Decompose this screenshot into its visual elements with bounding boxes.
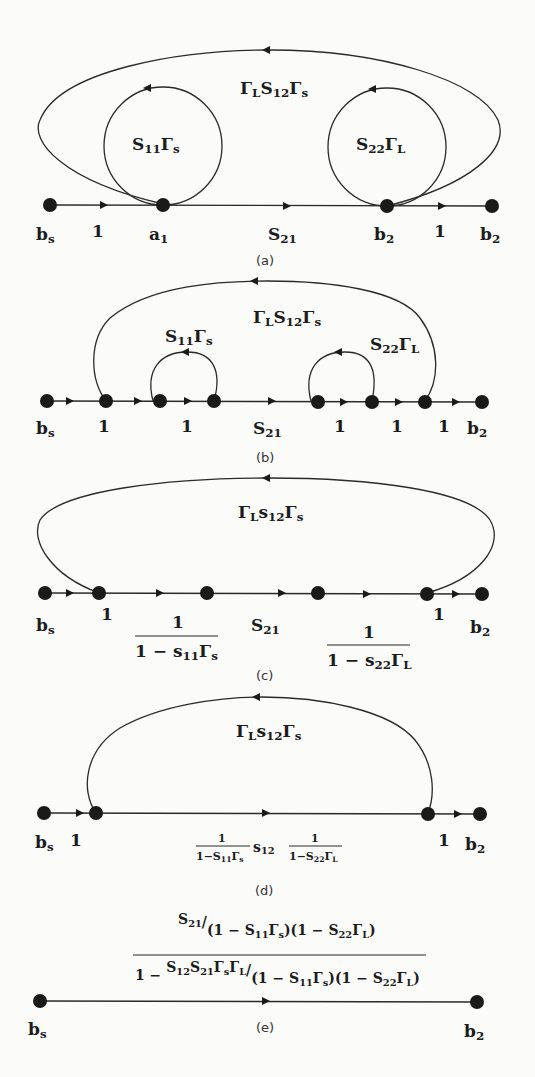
arrow-icon (262, 474, 270, 482)
node (153, 394, 167, 408)
node-b2 (380, 199, 394, 213)
node (420, 587, 434, 601)
panel-b: ΓLS12Γs S11Γs S22ΓL bs 1 1 S21 1 1 1 b2 … (36, 277, 489, 465)
signal-flow-graph-figure: ΓLS12Γs S11Γs S22ΓL bs 1 a1 S21 b2 1 b2 … (0, 0, 535, 1077)
arrow-icon (452, 398, 460, 406)
label-bs: bs (35, 832, 54, 854)
label-b2: b2 (470, 617, 490, 639)
node (311, 395, 325, 409)
label-s21: S21 (251, 615, 280, 637)
node (89, 806, 103, 820)
arrow-icon (340, 398, 348, 406)
label-gain-1: 1 (181, 416, 193, 436)
caption-a: (a) (256, 253, 274, 268)
node (311, 586, 325, 600)
node-bs (43, 198, 57, 212)
node (99, 394, 113, 408)
fraction-denominator: 1−S11Γs (196, 850, 244, 864)
label-gain-1: 1 (438, 416, 450, 436)
outer-feedback-loop (37, 478, 494, 593)
arrow-icon (66, 589, 74, 597)
label-b2: b2 (467, 418, 487, 440)
node (418, 395, 432, 409)
arrow-icon (278, 589, 286, 597)
outer-feedback-loop (94, 281, 436, 401)
arrow-icon (134, 397, 142, 405)
arrow-icon (143, 84, 151, 92)
fraction-numerator: 1 (172, 612, 184, 632)
label-b2-out: b2 (480, 224, 500, 246)
label-s21: S21 (268, 224, 297, 246)
label-gain-1: 1 (438, 830, 450, 850)
gain-numerator: S21/(1 − S11Γs)(1 − S22ΓL) (178, 911, 376, 940)
main-branch (45, 593, 482, 594)
node-bs (37, 806, 51, 820)
label-a1: a1 (149, 224, 168, 246)
label-s22-loop: S22ΓL (370, 334, 420, 356)
node (365, 395, 379, 409)
arrow-icon (452, 590, 460, 598)
panel-c: ΓLs12Γs bs 1 1 1 − s11Γs S21 1 1 − s22ΓL… (36, 474, 494, 683)
label-gain-1: 1 (433, 604, 445, 624)
fraction-denominator: 1 − s11Γs (135, 641, 218, 663)
arrow-icon (262, 46, 270, 54)
label-gain-1: 1 (434, 221, 446, 241)
caption-d: (d) (255, 883, 273, 898)
label-outer-loop: ΓLs12Γs (236, 721, 302, 743)
label-bs: bs (36, 615, 55, 637)
fraction-numerator: 1 (218, 832, 226, 845)
arrow-icon (395, 398, 403, 406)
label-outer-loop: ΓLS12Γs (240, 78, 308, 100)
panel-e: S21/(1 − S11Γs)(1 − S22ΓL) 1 − S12S21ΓsΓ… (28, 911, 484, 1043)
arrow-icon (368, 85, 376, 93)
label-gain-1: 1 (101, 604, 113, 624)
arrow-icon (250, 277, 258, 285)
arrow-icon (262, 809, 270, 817)
arrow-icon (76, 809, 84, 817)
s22-gammal-loop (309, 352, 374, 401)
arrow-icon (283, 202, 291, 210)
fraction-denominator: 1−S22ΓL (289, 850, 338, 864)
node (200, 586, 214, 600)
node-bs (38, 586, 52, 600)
arrow-icon (438, 202, 446, 210)
node-a1 (156, 198, 170, 212)
caption-b: (b) (256, 450, 274, 465)
label-s22-loop: S22ΓL (356, 134, 406, 156)
arrow-icon (262, 997, 270, 1005)
arrow-icon (156, 589, 164, 597)
label-s11-loop: S11Γs (132, 134, 180, 156)
label-s12: s12 (253, 839, 275, 856)
label-gain-1: 1 (92, 221, 104, 241)
label-gain-1: 1 (334, 416, 346, 436)
label-s21: S21 (253, 418, 282, 440)
s11-gammas-loop (151, 352, 217, 401)
arrow-icon (334, 348, 342, 356)
label-bs: bs (36, 418, 55, 440)
main-branch (50, 205, 492, 206)
arrow-icon (268, 397, 276, 405)
node-b2-out (485, 199, 499, 213)
label-bs: bs (36, 224, 55, 246)
node (207, 394, 221, 408)
fraction-numerator: 1 (311, 832, 319, 845)
label-outer-loop: ΓLS12Γs (253, 307, 321, 329)
arrow-icon (100, 201, 108, 209)
node-bs (40, 394, 54, 408)
label-gain-1: 1 (391, 416, 403, 436)
gain-denominator: 1 − S12S21ΓsΓL/(1 − S11Γs)(1 − S22ΓL) (135, 959, 420, 988)
arrow-icon (454, 810, 462, 818)
label-b2: b2 (374, 224, 394, 246)
node-bs (33, 994, 47, 1008)
label-b2: b2 (465, 834, 485, 856)
outer-feedback-loop (87, 697, 432, 813)
fraction-numerator: 1 (363, 622, 375, 642)
node-b2 (475, 587, 489, 601)
arrow-icon (66, 397, 74, 405)
caption-c: (c) (256, 668, 273, 683)
label-outer-loop: ΓLs12Γs (238, 502, 304, 524)
arrow-icon (363, 590, 371, 598)
label-bs: bs (28, 1019, 47, 1041)
panel-a: ΓLS12Γs S11Γs S22ΓL bs 1 a1 S21 b2 1 b2 … (36, 46, 500, 268)
node-b2 (475, 395, 489, 409)
